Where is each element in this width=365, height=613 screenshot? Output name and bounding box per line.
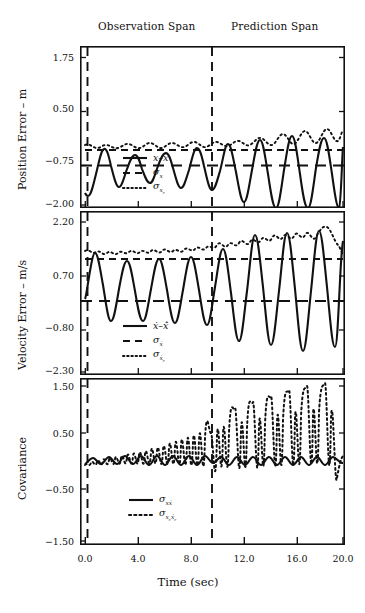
panel-1-ytick-2: −0.75	[28, 155, 74, 166]
panel-2-legend-item-1: σẋ	[122, 333, 168, 348]
panel-2-ytick-2: −0.80	[28, 322, 74, 333]
panel-2-legend-item-2: σẋc	[122, 348, 168, 363]
panel-1-legend-label-1: σx	[153, 166, 163, 179]
panel-1-legend-label-2: σxc	[153, 180, 165, 195]
figure-root: Observation Span Prediction Span Positio…	[0, 0, 365, 613]
legend-key-solid-icon	[122, 153, 148, 163]
panel-3-legend-label-1: σxcẋc	[159, 507, 176, 522]
panel-2-ytick-0: 2.20	[28, 216, 74, 227]
legend-key-solid-icon	[128, 495, 154, 505]
panel-3-sigma-xc-xdotc	[85, 383, 343, 480]
panel-3-ytick-0: 1.50	[28, 381, 74, 392]
panel-3-legend-item-1: σxcẋc	[128, 507, 176, 522]
panel-1-sigma-xc	[85, 129, 343, 148]
panel-position-error	[80, 46, 345, 208]
panel-3-legend-label-0: σxẋ	[159, 493, 172, 506]
panel-2-legend-label-1: σẋ	[153, 334, 163, 347]
legend-key-solid-icon	[122, 321, 148, 331]
xtick-2: 8.0	[171, 553, 211, 564]
panel-3-legend-item-0: σxẋ	[128, 492, 176, 507]
prediction-span-label: Prediction Span	[231, 20, 318, 32]
panel-1-legend-item-0: x–x̂	[122, 150, 168, 165]
panel-2-plot	[80, 211, 345, 375]
panel-2-ytick-1: 0.70	[28, 270, 74, 281]
panel-1-legend-item-1: σx	[122, 165, 168, 180]
panel-3-plot	[80, 378, 345, 545]
panel-1-plot	[80, 46, 345, 208]
xtick-4: 16.0	[277, 553, 317, 564]
panel-2-x-ticks	[85, 368, 343, 374]
xtick-1: 4.0	[118, 553, 158, 564]
x-axis-title: Time (sec)	[38, 575, 338, 589]
panel-2-legend-label-2: σẋc	[153, 348, 165, 363]
panel-3-ytick-2: −0.50	[28, 484, 74, 495]
panel-covariance	[80, 378, 345, 545]
panel-1-ytick-1: 0.50	[28, 103, 74, 114]
panel-3-x-ticks	[85, 537, 343, 544]
panel-velocity-error	[80, 211, 345, 375]
panel-1-ytick-3: −2.00	[28, 198, 74, 209]
panel-1-legend-label-0: x–x̂	[153, 152, 168, 163]
panel-2-ytick-3: −2.30	[28, 365, 74, 376]
panel-2-legend-item-0: ẋ–x̂̇	[122, 318, 168, 333]
panel-2-legend: ẋ–x̂̇ σẋ σẋc	[122, 318, 168, 363]
panel-3-legend: σxẋ σxcẋc	[128, 492, 176, 522]
legend-key-dashed-icon	[122, 168, 148, 178]
legend-key-dotted-icon	[122, 351, 148, 361]
panel-2-legend-label-0: ẋ–x̂̇	[153, 320, 168, 331]
legend-key-dotted-icon	[122, 183, 148, 193]
panel-3-ytick-3: −1.50	[28, 536, 74, 547]
panel-1-legend-item-2: σxc	[122, 180, 168, 195]
panel-2-sigma-xdot-c	[85, 227, 343, 255]
xtick-0: 0.0	[65, 553, 105, 564]
panel-1-ytick-0: 1.75	[28, 52, 74, 63]
xtick-5: 20.0	[323, 553, 363, 564]
panel-1-legend: x–x̂ σx σxc	[122, 150, 168, 195]
observation-span-label: Observation Span	[98, 20, 195, 32]
panel-3-ytick-1: 0.50	[28, 428, 74, 439]
legend-key-dashed-icon	[122, 336, 148, 346]
legend-key-dotted-icon	[128, 510, 154, 520]
xtick-3: 12.0	[224, 553, 264, 564]
